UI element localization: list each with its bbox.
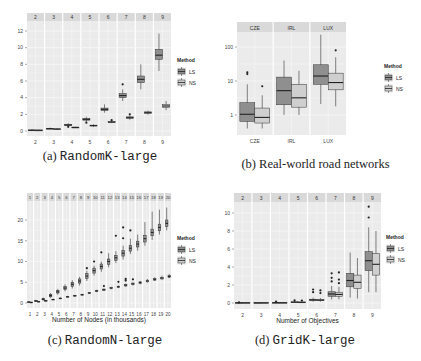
y-tick-label: 15 bbox=[17, 238, 23, 244]
caption-d: (d) GridK-large bbox=[210, 333, 400, 348]
x-tick-label: 19 bbox=[158, 312, 164, 317]
legend-label-ls: LS bbox=[189, 247, 196, 253]
x-tick-label: 8 bbox=[143, 139, 146, 145]
y-tick-label: 0 bbox=[20, 300, 23, 306]
y-tick-label: 1 bbox=[230, 112, 233, 118]
legend-label-ls: LS bbox=[396, 75, 403, 81]
box-ns bbox=[95, 290, 98, 292]
chart-d: 22334455667788990246810Number of Objecti… bbox=[210, 180, 421, 325]
facet-strip-label: 3 bbox=[260, 195, 263, 201]
caption-c: (c) RandomN-large bbox=[0, 333, 210, 348]
y-tick-label: 4 bbox=[227, 264, 230, 270]
x-tick-label: 9 bbox=[371, 312, 374, 318]
x-axis-title: Number of Objectives bbox=[276, 317, 339, 325]
x-tick-label: 3 bbox=[43, 312, 46, 317]
facet-strip-label: 3 bbox=[52, 14, 55, 20]
x-tick-label: 2 bbox=[241, 312, 244, 318]
facet-strip-label: 8 bbox=[143, 14, 146, 20]
legend-title: Method bbox=[177, 57, 195, 63]
facet-strip-label: 7 bbox=[125, 14, 128, 20]
x-tick-label: 3 bbox=[52, 139, 55, 145]
plot-area: 22334455667788990246810Number of Objecti… bbox=[224, 193, 381, 325]
y-tick-label: 4 bbox=[20, 94, 23, 100]
legend-label-ls: LS bbox=[189, 69, 196, 75]
box-ls bbox=[27, 301, 30, 302]
facet-strip-label: 2 bbox=[241, 195, 244, 201]
facet-strip-label: 7 bbox=[334, 195, 337, 201]
y-tick-label: 8 bbox=[227, 228, 230, 234]
x-tick-label: 2 bbox=[36, 312, 39, 317]
legend-label-ns: NS bbox=[189, 80, 197, 86]
facet-strip-label: 2 bbox=[34, 14, 37, 20]
y-tick-label: 10 bbox=[224, 210, 230, 216]
x-tick-label: 20 bbox=[165, 312, 171, 317]
facet-strip-label: 12 bbox=[108, 195, 113, 200]
box-ns bbox=[37, 301, 40, 302]
y-tick-label: 8 bbox=[20, 61, 23, 67]
x-tick-label: 9 bbox=[161, 139, 164, 145]
caption-c-prefix: (c) bbox=[48, 333, 65, 347]
box-ns bbox=[66, 296, 69, 298]
facet-strip-label: 20 bbox=[166, 195, 171, 200]
chart-a: 2233445566778899024681012Number of Objec… bbox=[0, 0, 210, 145]
y-tick-label: 10 bbox=[17, 258, 23, 264]
facet-strip-label: 10 bbox=[93, 195, 98, 200]
legend: MethodLSNS bbox=[386, 234, 406, 264]
caption-a: (a) RandomK-large bbox=[0, 149, 200, 164]
x-tick-label: CZE bbox=[250, 138, 261, 144]
legend-label-ns: NS bbox=[396, 86, 404, 92]
box-ns bbox=[74, 295, 77, 297]
box-ns bbox=[45, 300, 48, 301]
facet-strip-label: 18 bbox=[151, 195, 156, 200]
facet-strip-label: 4 bbox=[70, 14, 73, 20]
box-ls bbox=[35, 300, 38, 302]
caption-b: (b) Real-world road networks bbox=[210, 157, 421, 172]
legend-label-ns: NS bbox=[189, 258, 197, 264]
facet-strip-label: 5 bbox=[297, 195, 300, 201]
y-tick-label: 2 bbox=[227, 282, 230, 288]
facet-strip-label: LUX bbox=[323, 25, 333, 31]
y-tick-label: 10 bbox=[227, 78, 233, 84]
chart-c-svg: 1122334455667788991010111112121313141415… bbox=[0, 180, 210, 325]
caption-d-name: GridK-large bbox=[273, 334, 356, 348]
x-tick-label: 1 bbox=[29, 312, 32, 317]
plot-area: 2233445566778899024681012Number of Objec… bbox=[17, 13, 171, 145]
facet-strip-label: 9 bbox=[161, 14, 164, 20]
x-axis-title: Number of Objectives bbox=[68, 144, 131, 145]
x-tick-label: 8 bbox=[352, 312, 355, 318]
chart-b: CZECZEIRLIRLLUXLUX110100MethodLSNS bbox=[210, 0, 421, 145]
box-ns bbox=[54, 128, 61, 129]
facet-strip-label: 9 bbox=[371, 195, 374, 201]
box-ls bbox=[254, 303, 261, 304]
chart-a-svg: 2233445566778899024681012Number of Objec… bbox=[0, 0, 210, 145]
box-ns bbox=[72, 127, 79, 128]
y-tick-label: 6 bbox=[20, 78, 23, 84]
facet-strip-label: 16 bbox=[137, 195, 142, 200]
chart-c: 1122334455667788991010111112121313141415… bbox=[0, 180, 210, 325]
facet-strip-label: 13 bbox=[115, 195, 120, 200]
y-tick-label: 2 bbox=[20, 111, 23, 117]
y-tick-label: 6 bbox=[227, 246, 230, 252]
facet-strip-label: CZE bbox=[250, 25, 261, 31]
x-tick-label: LUX bbox=[323, 138, 333, 144]
caption-b-prefix: (b) bbox=[241, 157, 259, 171]
facet-strip-label: 8 bbox=[352, 195, 355, 201]
box-ns bbox=[52, 299, 55, 300]
facet-strip-label: 11 bbox=[100, 195, 105, 200]
y-tick-label: 5 bbox=[20, 279, 23, 285]
x-tick-label: 18 bbox=[151, 312, 157, 317]
box-ns bbox=[243, 303, 250, 304]
chart-d-svg: 22334455667788990246810Number of Objecti… bbox=[210, 180, 421, 325]
facet-strip-label: 6 bbox=[107, 14, 110, 20]
box-ns bbox=[59, 298, 62, 299]
y-tick-label: 0 bbox=[20, 128, 23, 134]
facet-strip-label: 5 bbox=[89, 14, 92, 20]
caption-d-prefix: (d) bbox=[255, 333, 273, 347]
facet-strip-label: IRL bbox=[288, 25, 296, 31]
y-tick-label: 100 bbox=[225, 44, 234, 50]
x-tick-label: 2 bbox=[34, 139, 37, 145]
legend-title: Method bbox=[386, 234, 404, 240]
y-tick-label: 20 bbox=[17, 217, 23, 223]
legend-label-ns: NS bbox=[398, 257, 406, 263]
x-tick-label: 3 bbox=[260, 312, 263, 318]
